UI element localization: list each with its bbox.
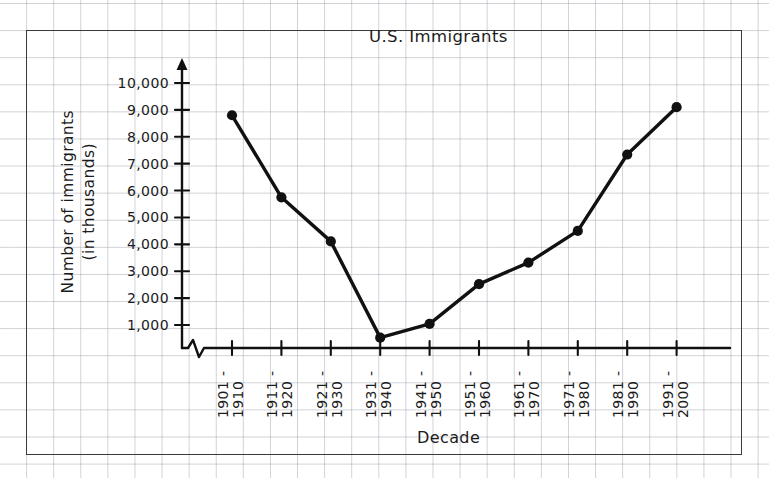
x-tick-range-end: 1930 (330, 370, 345, 418)
x-axis-tick-label: 1981 -1990 (611, 370, 641, 418)
x-axis-tick-label: 1931 -1940 (364, 370, 394, 418)
x-axis-tick-label: 1901 -1910 (216, 370, 246, 418)
y-axis-tick-label: 5,000 (0, 209, 169, 225)
x-axis-tick-label: 1941 -1950 (414, 370, 444, 418)
y-axis-tick-label: 9,000 (0, 102, 169, 118)
chart-axes (175, 58, 730, 357)
immigrants-series-line (232, 107, 677, 337)
x-tick-range-end: 2000 (675, 370, 690, 418)
x-tick-range-start: 1921 - (315, 370, 330, 418)
x-tick-range-start: 1941 - (414, 370, 429, 418)
x-axis-tick-label: 1911 -1920 (265, 370, 295, 418)
x-axis-label: Decade (417, 428, 480, 447)
chart-title: U.S. Immigrants (369, 27, 508, 46)
x-tick-range-end: 1960 (478, 370, 493, 418)
x-axis-tick-label: 1991 -2000 (661, 370, 691, 418)
x-tick-range-start: 1931 - (364, 370, 379, 418)
x-axis-tick-label: 1961 -1970 (512, 370, 542, 418)
x-tick-range-start: 1951 - (463, 370, 478, 418)
x-axis-tick-label: 1951 -1960 (463, 370, 493, 418)
y-axis-tick-label: 6,000 (0, 183, 169, 199)
y-axis-tick-label: 4,000 (0, 236, 169, 252)
y-axis-tick-label: 3,000 (0, 263, 169, 279)
x-axis-tick-label: 1971 -1980 (562, 370, 592, 418)
x-tick-range-end: 1950 (428, 370, 443, 418)
x-tick-range-start: 1991 - (661, 370, 676, 418)
x-tick-range-start: 1971 - (562, 370, 577, 418)
x-tick-range-start: 1961 - (512, 370, 527, 418)
x-axis-tick-label: 1921 -1930 (315, 370, 345, 418)
x-tick-range-end: 1970 (527, 370, 542, 418)
x-tick-range-start: 1911 - (265, 370, 280, 418)
x-tick-range-start: 1901 - (216, 370, 231, 418)
y-axis-tick-label: 7,000 (0, 156, 169, 172)
x-tick-range-end: 1980 (577, 370, 592, 418)
x-tick-range-end: 1920 (280, 370, 295, 418)
y-axis-tick-label: 8,000 (0, 129, 169, 145)
x-tick-range-end: 1940 (379, 370, 394, 418)
x-tick-range-end: 1910 (231, 370, 246, 418)
y-axis-tick-label: 2,000 (0, 290, 169, 306)
x-tick-range-end: 1990 (626, 370, 641, 418)
x-tick-range-start: 1981 - (611, 370, 626, 418)
y-axis-tick-label: 10,000 (0, 75, 169, 91)
y-axis-tick-label: 1,000 (0, 317, 169, 333)
immigrants-series-markers (227, 102, 682, 343)
